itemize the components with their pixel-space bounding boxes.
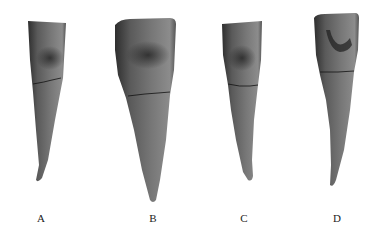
tooth-c xyxy=(222,21,262,181)
panel-label-b: B xyxy=(149,212,156,224)
panel-label-a: A xyxy=(37,212,45,224)
tooth-b xyxy=(115,18,176,202)
panel-label-c: C xyxy=(240,212,247,224)
teeth-figure xyxy=(0,0,376,236)
tooth-a xyxy=(28,21,66,181)
tooth-d xyxy=(314,13,359,186)
panel-label-d: D xyxy=(333,212,341,224)
